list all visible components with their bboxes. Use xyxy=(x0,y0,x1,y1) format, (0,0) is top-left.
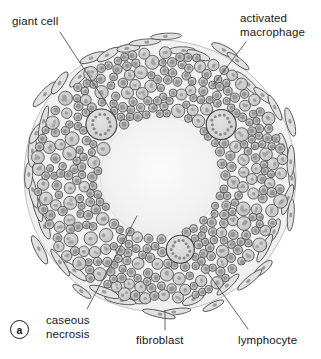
lymphocyte-cell xyxy=(96,74,105,83)
lymphocyte-cell xyxy=(167,284,176,293)
lymphocyte-cell xyxy=(220,185,228,193)
lymphocyte-cell xyxy=(210,236,218,244)
activated-macrophage-cell xyxy=(62,108,72,118)
lymphocyte-cell xyxy=(223,97,230,104)
lymphocyte-cell xyxy=(82,221,90,229)
lymphocyte-cell xyxy=(255,132,262,139)
lymphocyte-cell xyxy=(198,232,206,240)
activated-macrophage-cell xyxy=(79,246,90,257)
activated-macrophage-cell xyxy=(249,94,261,106)
fibroblast-cell xyxy=(150,32,181,40)
lymphocyte-cell xyxy=(84,211,93,220)
lymphocyte-cell xyxy=(227,104,235,112)
lymphocyte-cell xyxy=(227,241,235,249)
lymphocyte-cell xyxy=(64,171,73,180)
lymphocyte-cell xyxy=(118,78,128,88)
activated-macrophage-cell xyxy=(266,204,279,217)
lymphocyte-cell xyxy=(166,97,173,104)
activated-macrophage-cell xyxy=(187,105,198,116)
lymphocyte-cell xyxy=(94,167,102,175)
activated-macrophage-cell xyxy=(54,241,64,251)
lymphocyte-cell xyxy=(129,98,137,106)
lymphocyte-cell xyxy=(97,64,106,73)
lymphocyte-cell xyxy=(200,250,208,258)
lymphocyte-cell xyxy=(188,77,196,85)
lymphocyte-cell xyxy=(143,278,151,286)
activated-macrophage-cell xyxy=(124,70,134,80)
lymphocyte-cell xyxy=(169,89,177,97)
lymphocyte-cell xyxy=(237,238,245,246)
lymphocyte-cell xyxy=(220,210,229,219)
lymphocyte-cell xyxy=(86,274,95,283)
lymphocyte-cell xyxy=(133,112,142,121)
lymphocyte-cell xyxy=(173,77,182,86)
lymphocyte-cell xyxy=(192,262,200,270)
lymphocyte-cell xyxy=(142,111,150,119)
lymphocyte-cell xyxy=(86,266,94,274)
lymphocyte-cell xyxy=(253,118,260,125)
activated-macrophage-cell xyxy=(97,142,110,155)
lymphocyte-cell xyxy=(45,220,54,229)
lymphocyte-cell xyxy=(222,274,230,282)
lymphocyte-cell xyxy=(199,86,208,95)
lymphocyte-cell xyxy=(238,257,246,265)
lymphocyte-cell xyxy=(158,247,167,256)
lymphocyte-cell xyxy=(39,205,48,214)
lymphocyte-cell xyxy=(176,53,185,62)
lymphocyte-cell xyxy=(227,162,237,172)
activated-macrophage-cell xyxy=(236,78,248,90)
lymphocyte-cell xyxy=(109,219,119,229)
activated-macrophage-cell xyxy=(64,215,75,226)
lymphocyte-cell xyxy=(231,199,238,206)
lymphocyte-cell xyxy=(159,59,166,66)
lymphocyte-cell xyxy=(209,264,216,271)
lymphocyte-cell xyxy=(58,206,67,215)
lymphocyte-cell xyxy=(72,176,81,185)
lymphocyte-cell xyxy=(256,220,263,227)
lymphocyte-cell xyxy=(73,95,80,102)
granuloma-diagram xyxy=(0,0,321,359)
lymphocyte-cell xyxy=(132,59,140,67)
activated-macrophage-cell xyxy=(32,151,45,164)
activated-macrophage-cell xyxy=(237,217,251,231)
activated-macrophage-cell xyxy=(59,91,73,105)
lymphocyte-cell xyxy=(112,92,120,100)
lymphocyte-cell xyxy=(211,210,218,217)
lymphocyte-cell xyxy=(121,53,129,61)
lymphocyte-cell xyxy=(87,189,95,197)
lymphocyte-cell xyxy=(201,265,210,274)
lymphocyte-cell xyxy=(102,203,109,210)
lymphocyte-cell xyxy=(157,282,165,290)
activated-macrophage-cell xyxy=(84,232,97,245)
lymphocyte-cell xyxy=(190,94,197,101)
lymphocyte-cell xyxy=(220,237,228,245)
lymphocyte-cell xyxy=(137,103,145,111)
activated-macrophage-cell xyxy=(277,154,288,165)
lymphocyte-cell xyxy=(184,115,192,123)
activated-macrophage-cell xyxy=(216,228,226,238)
lymphocyte-cell xyxy=(207,252,216,261)
lymphocyte-cell xyxy=(194,241,202,249)
activated-macrophage-cell xyxy=(89,247,100,258)
lymphocyte-cell xyxy=(184,53,192,61)
lymphocyte-cell xyxy=(73,157,81,165)
panel-letter-a: a xyxy=(10,320,29,339)
lymphocyte-cell xyxy=(150,291,159,300)
lymphocyte-cell xyxy=(156,110,164,118)
activated-macrophage-cell xyxy=(101,244,111,254)
lymphocyte-cell xyxy=(81,87,89,95)
lymphocyte-cell xyxy=(168,69,176,77)
activated-macrophage-cell xyxy=(176,89,187,100)
activated-macrophage-cell xyxy=(73,257,86,270)
lymphocyte-cell xyxy=(223,192,231,200)
lymphocyte-cell xyxy=(125,240,133,248)
lymphocyte-cell xyxy=(70,247,79,256)
lymphocyte-cell xyxy=(212,202,219,209)
lymphocyte-cell xyxy=(119,120,129,130)
lymphocyte-cell xyxy=(52,181,62,191)
giant-cell xyxy=(166,235,194,263)
lymphocyte-cell xyxy=(73,222,82,231)
activated-macrophage-cell xyxy=(139,48,150,59)
lymphocyte-cell xyxy=(74,102,83,111)
lymphocyte-cell xyxy=(118,103,128,113)
